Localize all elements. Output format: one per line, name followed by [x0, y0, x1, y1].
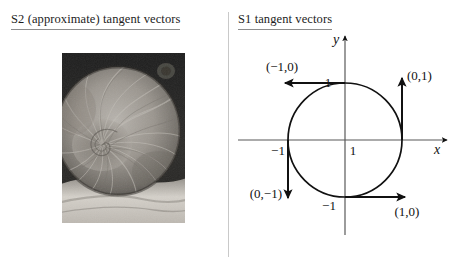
panel-divider: [228, 12, 229, 257]
y-tick-negative-one: −1: [322, 198, 336, 213]
figure-two-panel: S2 (approximate) tangent vectors: [0, 0, 466, 265]
y-axis-label: y: [331, 32, 340, 47]
left-panel-title: S2 (approximate) tangent vectors: [11, 12, 180, 30]
tangent-vector-bottom-label: (1,0): [395, 204, 420, 219]
tangent-vector-top-label: (−1,0): [266, 59, 298, 74]
tangent-vector-top: (−1,0): [266, 59, 345, 83]
tangent-vector-right: (0,1): [402, 68, 432, 140]
unit-circle-diagram: x y 1 −1 −1 1 (−1,0) (0,1) (1,0): [232, 30, 466, 262]
right-panel-title: S1 tangent vectors: [238, 12, 332, 30]
x-tick-negative-one: −1: [271, 143, 285, 158]
tangent-vector-right-label: (0,1): [407, 68, 432, 83]
x-axis-label: x: [433, 142, 441, 157]
x-tick-positive-one: 1: [350, 143, 357, 158]
tangent-vector-bottom: (1,0): [345, 197, 419, 219]
baby-head-photo: [62, 53, 185, 223]
tangent-vector-left-label: (0,−1): [250, 186, 282, 201]
